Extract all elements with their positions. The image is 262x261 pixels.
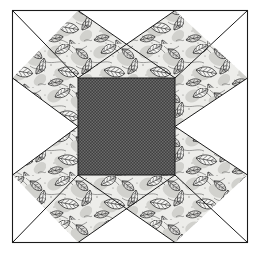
quilt-block-canvas: Quilt Block Pattern Diagram X Star Block… [0, 0, 262, 261]
center-square-patch [78, 78, 175, 175]
quilt-block-illustration [0, 0, 262, 261]
